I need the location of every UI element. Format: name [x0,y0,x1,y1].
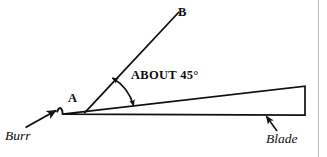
label-angle-note: ABOUT 45° [131,69,199,82]
figure-diagram: B A ABOUT 45° Burr Blade [0,0,327,157]
label-point-b: B [178,6,186,19]
burr-leader-arrow [26,111,57,128]
blade-outline [63,86,306,115]
label-burr: Burr [5,129,31,143]
label-point-a: A [68,92,77,105]
blade-shape [63,86,306,115]
label-blade: Blade [266,132,298,146]
blade-leader-arrow [267,117,278,132]
burr-hook [57,108,62,114]
angle-arc [113,78,134,106]
line-ab [85,13,179,113]
